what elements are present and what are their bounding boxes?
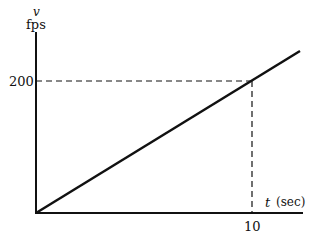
velocity-line — [36, 51, 300, 213]
y-tick-label: 200 — [9, 75, 34, 88]
x-tick-label: 10 — [244, 220, 261, 233]
x-axis-unit: (sec) — [276, 196, 305, 208]
y-axis-unit: fps — [26, 18, 46, 31]
chart: v fps 200 t (sec) 10 — [0, 0, 310, 240]
plot-area — [0, 0, 310, 240]
x-axis-variable: t — [265, 196, 270, 209]
